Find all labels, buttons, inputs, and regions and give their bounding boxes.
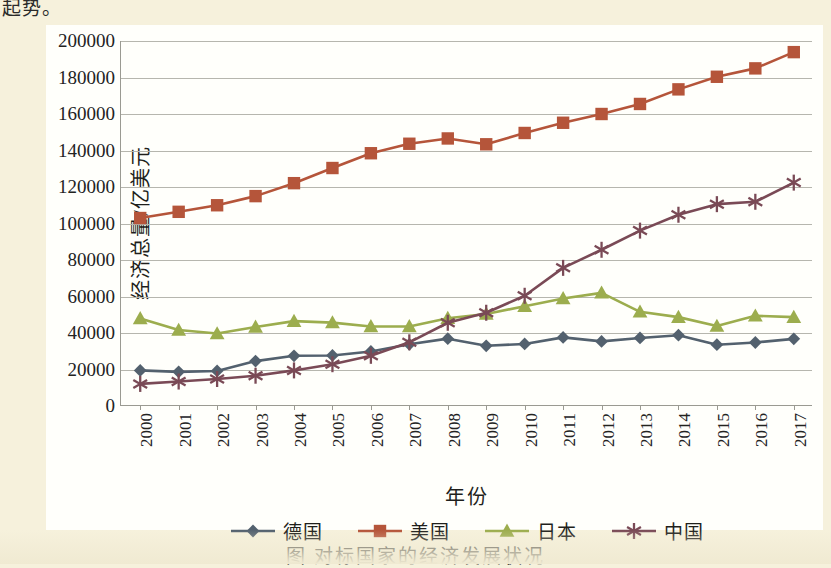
data-point-square-marker (134, 212, 146, 224)
data-point-square-marker (634, 98, 646, 110)
data-point-diamond-marker (787, 332, 800, 345)
chart-legend: 德国美国日本中国 (121, 517, 812, 544)
data-point-triangle-marker (594, 285, 609, 298)
data-point-square-marker (288, 177, 300, 189)
x-tick-label: 2010 (522, 413, 542, 447)
data-point-square-marker (249, 190, 261, 202)
x-tick-label: 2011 (560, 413, 580, 446)
x-tick-label: 2003 (253, 413, 273, 447)
data-point-triangle-marker (133, 311, 148, 324)
legend-symbol-asterisk-icon (611, 522, 657, 540)
x-tick-label: 2000 (137, 413, 157, 447)
data-point-square-marker (788, 46, 800, 58)
x-tick-label: 2016 (752, 413, 772, 447)
legend-label: 德国 (283, 517, 323, 544)
data-point-diamond-marker (480, 339, 493, 352)
legend-label: 日本 (537, 517, 577, 544)
series-中国 (133, 175, 800, 392)
x-tick-label: 2005 (329, 413, 349, 447)
data-point-square-marker (480, 138, 492, 150)
series-layer (121, 41, 813, 406)
data-point-triangle-marker (633, 304, 648, 317)
y-tick-label: 160000 (58, 103, 115, 125)
data-point-square-marker (403, 138, 415, 150)
y-tick-label: 120000 (58, 176, 115, 198)
legend-item-中国[interactable]: 中国 (611, 517, 704, 544)
x-axis-title: 年份 (121, 481, 812, 510)
legend-symbol-square-icon (357, 522, 403, 540)
figure-caption: 图 对标国家的经济发展状况 (0, 541, 831, 568)
series-line (140, 183, 794, 384)
data-point-diamond-marker (634, 332, 647, 345)
plot-area: 经济总量/亿美元 年份 0200004000060000800001000001… (120, 41, 812, 406)
y-tick-label: 40000 (68, 322, 116, 344)
data-point-square-marker (749, 62, 761, 74)
y-tick-label: 180000 (58, 67, 115, 89)
data-point-square-marker (326, 162, 338, 174)
data-point-square-marker (711, 71, 723, 83)
data-point-asterisk-marker (556, 260, 570, 276)
y-tick-label: 140000 (58, 140, 115, 162)
series-line (140, 52, 794, 218)
data-point-diamond-marker (288, 349, 301, 362)
series-line (140, 335, 794, 372)
data-point-square-marker (595, 108, 607, 120)
legend-item-日本[interactable]: 日本 (484, 517, 577, 544)
x-tick-label: 2014 (675, 413, 695, 447)
data-point-square-marker (172, 206, 184, 218)
series-line (140, 293, 794, 334)
legend-item-美国[interactable]: 美国 (357, 517, 450, 544)
data-point-asterisk-marker (518, 288, 532, 304)
data-point-square-marker (672, 83, 684, 95)
x-tick-label: 2008 (445, 413, 465, 447)
x-tick-label: 2009 (483, 413, 503, 447)
data-point-asterisk-marker (633, 223, 647, 239)
data-point-asterisk-marker (595, 242, 609, 258)
data-point-diamond-marker (134, 364, 147, 377)
y-tick-label: 100000 (58, 213, 115, 235)
x-tick-label: 2013 (637, 413, 657, 447)
legend-label: 美国 (410, 517, 450, 544)
data-point-square-marker (557, 117, 569, 129)
x-tick-label: 2017 (791, 413, 811, 447)
data-point-diamond-marker (710, 338, 723, 351)
x-tick-label: 2015 (714, 413, 734, 447)
data-point-diamond-marker (441, 332, 454, 345)
x-tick-label: 2001 (176, 413, 196, 447)
data-point-diamond-marker (749, 336, 762, 349)
chart-panel: 经济总量/亿美元 年份 0200004000060000800001000001… (46, 25, 823, 530)
legend-item-德国[interactable]: 德国 (230, 517, 323, 544)
data-point-asterisk-marker (787, 175, 801, 191)
data-point-diamond-marker (595, 335, 608, 348)
data-point-square-marker (211, 199, 223, 211)
x-tick-label: 2004 (291, 413, 311, 447)
legend-label: 中国 (664, 517, 704, 544)
y-tick-label: 80000 (68, 249, 116, 271)
y-tick-label: 60000 (68, 286, 116, 308)
data-point-diamond-marker (672, 329, 685, 342)
x-tick-label: 2007 (406, 413, 426, 447)
series-美国 (134, 46, 800, 224)
data-point-square-marker (518, 127, 530, 139)
data-point-square-marker (442, 132, 454, 144)
data-point-diamond-marker (557, 331, 570, 344)
y-tick-label: 200000 (58, 30, 115, 52)
series-日本 (133, 285, 801, 339)
x-tick-label: 2006 (368, 413, 388, 447)
data-point-square-marker (365, 147, 377, 159)
x-tick-label: 2012 (599, 413, 619, 447)
page-top-partial-text: 起势。 (2, 0, 62, 20)
x-tick-label: 2002 (214, 413, 234, 447)
y-tick-label: 0 (106, 395, 116, 417)
series-德国 (134, 329, 800, 378)
y-tick-label: 20000 (68, 359, 116, 381)
data-point-diamond-marker (518, 338, 531, 351)
legend-symbol-diamond-icon (230, 522, 276, 540)
data-point-diamond-marker (249, 355, 262, 368)
data-point-diamond-marker (246, 524, 259, 537)
data-point-square-marker (373, 524, 385, 536)
legend-symbol-triangle-icon (484, 522, 530, 540)
